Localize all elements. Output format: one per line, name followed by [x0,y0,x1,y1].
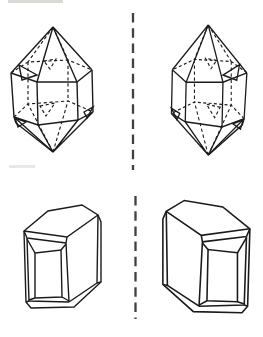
paper-background [0,0,263,337]
crystal-figure [0,0,263,337]
scan-artifact-left [9,165,35,168]
figure-canvas [0,0,263,337]
scan-artifact-top [8,0,63,3]
bottom-left-bevel-edge [26,301,29,302]
